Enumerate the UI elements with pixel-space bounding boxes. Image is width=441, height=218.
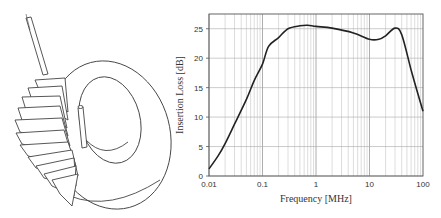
y-tick-label: 0: [199, 172, 204, 181]
x-tick-label: 10: [365, 180, 374, 189]
y-tick-label: 25: [194, 25, 203, 34]
y-tick-label: 15: [194, 84, 203, 93]
x-axis-ticks: 0.010.1110100: [201, 180, 430, 189]
x-tick-label: 0.1: [257, 180, 269, 189]
toroidal-inductor-illustration: [0, 0, 180, 218]
x-tick-label: 100: [416, 180, 430, 189]
y-axis-ticks: 0510152025: [194, 25, 209, 181]
plot-frame: [209, 14, 423, 176]
x-tick-label: 1: [314, 180, 319, 189]
lead-wire-top: [26, 17, 48, 75]
y-tick-label: 5: [199, 143, 204, 152]
x-tick-label: 0.01: [201, 180, 217, 189]
y-tick-label: 10: [194, 113, 203, 122]
y-tick-label: 20: [194, 54, 203, 63]
insertion-loss-curve: [209, 25, 423, 169]
x-axis-title: Frequency [MHz]: [280, 193, 352, 204]
chart-grid: [209, 14, 423, 176]
